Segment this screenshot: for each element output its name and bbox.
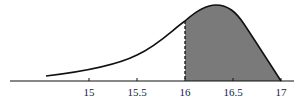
density-chart: 15 15.5 16 16.5 17: [0, 0, 300, 102]
shaded-area: [185, 5, 281, 81]
tick-label-17: 17: [276, 86, 288, 98]
tick-label-16-5: 16.5: [223, 86, 243, 98]
tick-label-16: 16: [180, 86, 192, 98]
tick-label-15: 15: [84, 86, 96, 98]
tick-label-15-5: 15.5: [127, 86, 147, 98]
